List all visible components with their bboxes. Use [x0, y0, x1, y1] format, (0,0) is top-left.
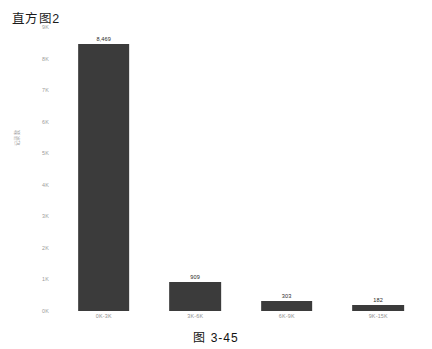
y-axis-tick-label: 9K: [42, 24, 49, 30]
bar-value-label: 909: [190, 274, 200, 280]
bar-slot: 303: [241, 27, 333, 311]
bar-slot: 182: [333, 27, 425, 311]
y-axis-tick-label: 8K: [42, 56, 49, 62]
y-axis-tick-label: 6K: [42, 119, 49, 125]
y-axis-tick-label: 4K: [42, 182, 49, 188]
chart-title: 直方图2: [12, 8, 60, 27]
bar-9K-15K[interactable]: [352, 305, 404, 311]
y-axis-title: 记录数: [13, 130, 20, 146]
bar-value-label: 303: [282, 293, 292, 299]
bar-value-label: 182: [373, 297, 383, 303]
plot-area: 8,469909303182: [58, 27, 424, 311]
histogram-chart-card: 直方图2 0K1K2K3K4K5K6K7K8K9K 记录数 8,46990930…: [0, 0, 432, 326]
y-axis-tick-label: 7K: [42, 87, 49, 93]
x-axis-tick-label: 3K-6K: [187, 313, 203, 319]
bar-value-label: 8,469: [96, 36, 111, 42]
x-axis-tick-label: 0K-3K: [96, 313, 112, 319]
x-axis-tick-label: 9K-15K: [369, 313, 388, 319]
y-axis: 0K1K2K3K4K5K6K7K8K9K: [0, 27, 58, 311]
x-axis-tick-label: 6K-9K: [279, 313, 295, 319]
bar-slot: 8,469: [58, 27, 150, 311]
y-axis-tick-label: 0K: [42, 308, 49, 314]
x-axis: 0K-3K3K-6K6K-9K9K-15K: [58, 313, 424, 327]
bar-slot: 909: [150, 27, 242, 311]
bar-6K-9K[interactable]: [261, 301, 313, 311]
y-axis-tick-label: 2K: [42, 245, 49, 251]
y-axis-tick-label: 3K: [42, 213, 49, 219]
figure-caption: 图 3-45: [0, 328, 432, 345]
bar-0K-3K[interactable]: [78, 44, 130, 311]
y-axis-tick-label: 1K: [42, 276, 49, 282]
y-axis-tick-label: 5K: [42, 150, 49, 156]
bar-3K-6K[interactable]: [169, 282, 221, 311]
